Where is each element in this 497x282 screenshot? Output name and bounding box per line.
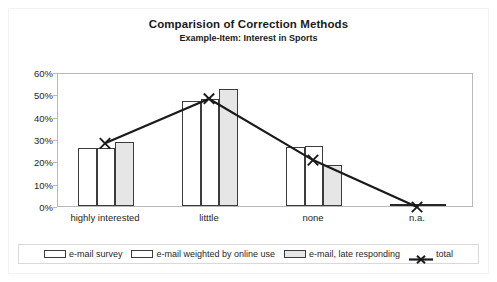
legend-item[interactable]: e-mail, late responding (284, 249, 400, 259)
y-axis-tick-label: 0% (7, 203, 53, 212)
y-axis-tick (53, 118, 57, 119)
bar (78, 148, 97, 206)
bar (390, 204, 409, 206)
y-axis-tick (53, 95, 57, 96)
legend-swatch (284, 250, 306, 258)
bar (305, 146, 324, 206)
y-axis-tick-label: 20% (7, 158, 53, 167)
x-axis: highly interestedlitttlenonen.a. (57, 212, 473, 228)
legend-item[interactable]: e-mail survey (44, 249, 123, 259)
x-axis-category-label: litttle (199, 212, 219, 223)
y-axis-tick-label: 40% (7, 113, 53, 122)
y-axis-tick (53, 185, 57, 186)
y-axis-tick (53, 73, 57, 74)
chart-title: Comparision of Correction Methods (0, 17, 497, 31)
bar (286, 147, 305, 206)
legend-label: total (436, 249, 453, 259)
legend-item[interactable]: e-mail weighted by online use (131, 249, 275, 259)
chart-container: Comparision of Correction Methods Exampl… (0, 0, 497, 282)
y-axis-tick-label: 30% (7, 136, 53, 145)
bar (409, 204, 428, 206)
x-axis-category-label: highly interested (70, 212, 139, 223)
legend-swatch (44, 250, 66, 258)
legend-item[interactable]: total (409, 249, 453, 259)
legend-label: e-mail weighted by online use (156, 249, 275, 259)
y-axis: 0%10%20%30%40%50%60% (3, 73, 53, 207)
y-axis-tick (53, 162, 57, 163)
bar (182, 101, 201, 206)
legend-swatch (131, 250, 153, 258)
bar (323, 165, 342, 206)
x-axis-category-label: n.a. (409, 212, 425, 223)
bar (115, 142, 134, 206)
legend-line-x-icon (409, 250, 433, 259)
y-axis-tick-label: 50% (7, 91, 53, 100)
y-axis-tick-label: 60% (7, 69, 53, 78)
chart-subtitle: Example-Item: Interest in Sports (0, 32, 497, 44)
legend-label: e-mail survey (69, 249, 123, 259)
y-axis-tick (53, 140, 57, 141)
legend-label: e-mail, late responding (309, 249, 400, 259)
y-axis-tick (53, 207, 57, 208)
plot-area (57, 73, 473, 207)
bar (219, 89, 238, 206)
title-block: Comparision of Correction Methods Exampl… (0, 17, 497, 44)
chart-legend: e-mail surveye-mail weighted by online u… (18, 244, 479, 264)
x-axis-category-label: none (302, 212, 323, 223)
bar (427, 204, 446, 206)
bar (97, 148, 116, 206)
y-axis-tick-label: 10% (7, 180, 53, 189)
bar (201, 99, 220, 206)
